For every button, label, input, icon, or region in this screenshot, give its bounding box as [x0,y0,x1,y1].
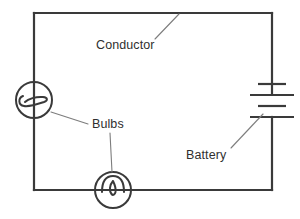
circuit-diagram: Conductor Bulbs Battery [0,0,300,219]
leader-conductor [155,14,179,39]
leader-lines [51,14,263,172]
bulb-bottom-filament-loop [110,181,116,195]
label-bulbs: Bulbs [92,118,124,131]
label-conductor: Conductor [96,39,155,52]
leader-battery [231,114,263,148]
leader-bulbs-to-left-bulb [51,112,88,124]
leader-bulbs-to-bottom-bulb [110,133,112,172]
bulb-bottom [95,172,131,208]
bulb-left [16,82,52,118]
circuit-schematic-canvas [0,0,300,219]
battery [250,84,294,117]
label-battery: Battery [186,149,226,162]
